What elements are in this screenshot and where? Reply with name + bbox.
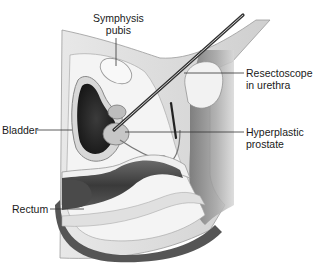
label-line: Hyperplastic bbox=[246, 126, 304, 138]
label-line: in urethra bbox=[246, 79, 313, 91]
label-resectoscope: Resectoscope in urethra bbox=[246, 67, 313, 91]
label-line: Symphysis bbox=[93, 12, 144, 24]
label-line: Resectoscope bbox=[246, 67, 313, 79]
label-bladder: Bladder bbox=[2, 124, 38, 136]
label-line: prostate bbox=[246, 138, 304, 150]
label-line: Bladder bbox=[2, 124, 38, 136]
label-line: Rectum bbox=[12, 203, 48, 215]
diagram-canvas: Symphysis pubis Resectoscope in urethra … bbox=[0, 0, 315, 264]
label-hyperplastic-prostate: Hyperplastic prostate bbox=[246, 126, 304, 150]
label-line: pubis bbox=[93, 24, 144, 36]
label-rectum: Rectum bbox=[12, 203, 48, 215]
label-symphysis-pubis: Symphysis pubis bbox=[93, 12, 144, 36]
